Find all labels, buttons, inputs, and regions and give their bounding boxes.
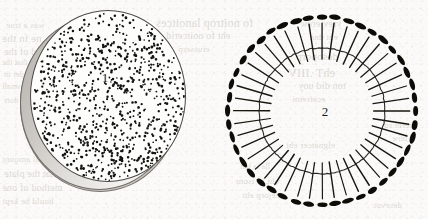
pin-cap [265, 184, 278, 195]
pin-cap [329, 200, 342, 207]
spoke [298, 27, 308, 61]
pin-cap [355, 193, 366, 201]
spoke [372, 126, 407, 136]
disk-top-face [30, 10, 186, 182]
pin-cap [232, 67, 240, 78]
spoke [238, 125, 272, 135]
pin-cap [413, 106, 418, 116]
pin-cap [411, 92, 418, 103]
pin-cap [387, 44, 397, 55]
spoke [236, 98, 272, 103]
pin-cap [303, 201, 315, 208]
figure-2-pinned-circle: 2 [212, 2, 428, 218]
spoke [337, 27, 347, 61]
spoke [235, 119, 271, 124]
pin-cap [225, 119, 232, 130]
pin-cap [341, 197, 354, 205]
spoke [373, 119, 409, 124]
pin-cap [290, 17, 303, 26]
pin-cap [411, 120, 418, 131]
stipple-texture [31, 11, 185, 181]
spoke [309, 24, 314, 60]
pin-cap [387, 166, 398, 178]
pin-cap [402, 66, 412, 79]
pin-cap [317, 202, 327, 207]
spoke [329, 23, 334, 59]
pin-cap [342, 17, 355, 25]
spoke [350, 37, 369, 67]
pin-cap [290, 198, 302, 206]
pin-cap [302, 15, 314, 22]
pin-cap [408, 131, 417, 144]
pin-cap [276, 21, 290, 31]
pin-cap [225, 104, 230, 116]
spoke [255, 145, 282, 169]
spoke [329, 162, 334, 198]
pin-cap [378, 176, 389, 187]
pin-cap [265, 26, 277, 36]
spoke [372, 86, 407, 96]
stipple-dots [33, 13, 185, 181]
figure-plate: was a truene in thed of theso that theor… [0, 0, 428, 219]
pin-cap [245, 167, 256, 179]
spoke [275, 154, 294, 184]
pin-cap [238, 54, 248, 66]
spoke [343, 31, 358, 64]
spoke [336, 160, 346, 194]
pin-cap [403, 144, 412, 157]
spoke [309, 163, 314, 199]
figure-1-stippled-disk: 1 [16, 4, 198, 200]
spoke [285, 31, 300, 64]
pin-cap [396, 54, 407, 67]
spoke [361, 145, 388, 168]
pin-cap [226, 92, 232, 103]
pin-cap [408, 78, 416, 91]
pin-cap [317, 14, 327, 19]
pin-cap [329, 14, 341, 21]
pin-cap [228, 78, 236, 90]
pin-cap [232, 143, 241, 155]
pin-cap [367, 185, 379, 195]
pin-cap [228, 131, 236, 144]
spoke [255, 53, 282, 77]
figure-2-label: 2 [319, 105, 331, 118]
spoke [274, 36, 293, 66]
spoke [298, 161, 308, 196]
spoke [373, 98, 409, 103]
pin-cap [367, 27, 378, 37]
pin-cap [276, 192, 288, 201]
spoke [237, 86, 272, 96]
pin-cap [354, 21, 367, 31]
pin-cap [238, 156, 249, 169]
figure-1-label: 1 [99, 71, 111, 84]
pin-cap [395, 155, 406, 168]
